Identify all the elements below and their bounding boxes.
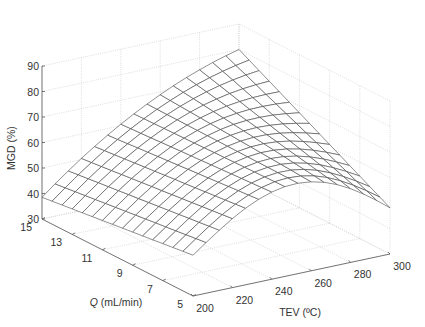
surface-chart: 3040506070809057911131520022024026028030… [0, 0, 425, 327]
z-tick-label: 40 [27, 188, 39, 200]
q-tick-label: 5 [177, 298, 183, 310]
tev-tick [270, 277, 272, 279]
q-tick-label: 15 [20, 221, 32, 233]
y-axis-label: Q (mL/min) [90, 296, 143, 308]
x-axis-label: TEV (ºC) [279, 306, 321, 318]
tev-tick-label: 220 [236, 294, 254, 306]
tev-tick-label: 200 [196, 302, 214, 314]
tev-tick [309, 269, 311, 271]
tev-tick-label: 280 [354, 268, 372, 280]
q-tick-label: 13 [51, 236, 63, 248]
grid-line [42, 24, 239, 66]
z-tick-label: 80 [27, 86, 39, 98]
z-tick-label: 70 [27, 111, 39, 123]
tev-tick-label: 240 [275, 285, 293, 297]
tev-tick-label: 300 [393, 260, 411, 272]
surface-cell [367, 191, 390, 208]
tev-tick [349, 260, 351, 262]
z-tick-label: 90 [27, 60, 39, 72]
y-axis-label-italic: Q [90, 296, 98, 308]
q-tick-label: 9 [117, 267, 123, 279]
z-axis-label: MGD (%) [5, 126, 17, 170]
q-tick-label: 7 [147, 283, 153, 295]
y-axis-label-rest: (mL/min) [98, 296, 142, 308]
q-tick-label: 11 [81, 252, 92, 264]
z-tick-label: 60 [27, 137, 39, 149]
tev-tick [230, 286, 232, 288]
z-tick-label: 50 [27, 162, 39, 174]
tev-tick-label: 260 [314, 277, 332, 289]
